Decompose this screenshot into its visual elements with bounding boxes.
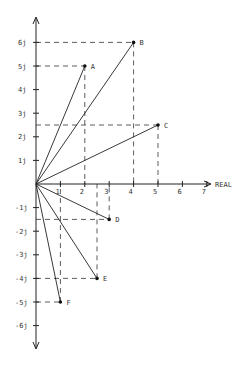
vectors bbox=[36, 42, 158, 302]
y-tick-label: 6j bbox=[18, 39, 26, 47]
y-tick-label: 3j bbox=[18, 110, 26, 118]
point-c bbox=[156, 123, 160, 127]
y-tick-label: 4j bbox=[18, 86, 26, 94]
x-tick-label: 5 bbox=[153, 188, 157, 196]
x-tick-label: 7 bbox=[202, 188, 206, 196]
y-tick-label: 5j bbox=[18, 63, 26, 71]
y-tick-label: -3j bbox=[15, 251, 28, 259]
x-tick-label: 6 bbox=[177, 188, 181, 196]
real-axis-label: REAL bbox=[215, 181, 232, 189]
point-label: D bbox=[115, 216, 119, 224]
y-tick-label: 1j bbox=[18, 157, 26, 165]
y-tick-label: -4j bbox=[15, 275, 28, 283]
point-label: E bbox=[103, 275, 107, 283]
point-b bbox=[132, 41, 136, 45]
point-e bbox=[95, 277, 99, 281]
x-tick-label: 3 bbox=[104, 188, 108, 196]
point-d bbox=[107, 218, 111, 222]
x-tick-label: 2 bbox=[80, 188, 84, 196]
x-tick-label: 4 bbox=[129, 188, 133, 196]
points: ABCDEF bbox=[59, 39, 169, 307]
y-tick-label: 2j bbox=[18, 133, 26, 141]
point-label: B bbox=[140, 39, 144, 47]
y-tick-label: -2j bbox=[15, 228, 28, 236]
projection-lines bbox=[36, 42, 158, 302]
point-label: F bbox=[66, 299, 70, 307]
vector-f bbox=[36, 184, 60, 302]
vector-a bbox=[36, 66, 85, 184]
vector-c bbox=[36, 125, 158, 184]
argand-diagram: 12345671j2j3j4j5j6j-1j-2j-3j-4j-5j-6j RE… bbox=[0, 0, 244, 366]
y-tick-label: -5j bbox=[15, 299, 28, 307]
point-a bbox=[83, 64, 87, 68]
point-f bbox=[59, 300, 63, 304]
point-label: C bbox=[164, 122, 168, 130]
vector-b bbox=[36, 42, 134, 184]
vector-e bbox=[36, 184, 97, 278]
y-tick-label: -6j bbox=[15, 322, 28, 330]
y-tick-label: -1j bbox=[15, 204, 28, 212]
point-label: A bbox=[91, 63, 96, 71]
